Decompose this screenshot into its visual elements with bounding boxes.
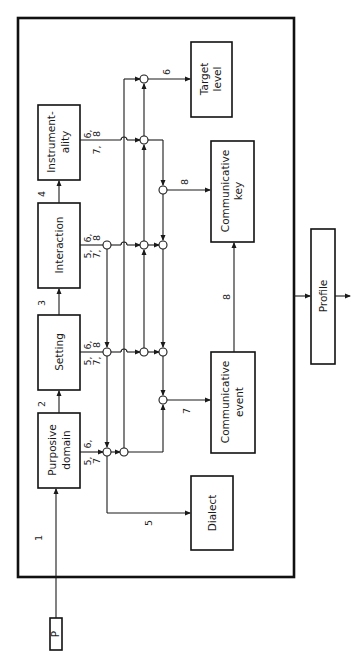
edge-label-7: 7 <box>181 408 192 414</box>
junction-node <box>103 348 111 356</box>
instrumentality-label-1: Instrument- <box>45 111 57 173</box>
communicative-event-label-1: Communicative <box>219 361 231 443</box>
junction-node <box>103 241 111 249</box>
edge-label-5: 5 <box>143 520 154 526</box>
junction-node <box>140 75 148 83</box>
setting-out-label-b: 8 <box>91 342 102 348</box>
junction-node <box>159 396 167 404</box>
junction-network <box>80 75 210 513</box>
profile-node: Profile <box>311 229 335 364</box>
purposive-domain-node: Purposive domain <box>38 413 80 488</box>
junction-node <box>159 186 167 194</box>
edge-label-1: 1 <box>33 535 44 541</box>
target-level-label-2: level <box>211 67 223 92</box>
junction-node <box>140 241 148 249</box>
purposive-domain-label-2: domain <box>60 430 72 469</box>
purposive-out-label-c: 7 <box>91 458 102 464</box>
setting-label: Setting <box>53 333 65 371</box>
target-level-node: Target level <box>191 42 232 117</box>
setting-node: Setting <box>38 315 80 390</box>
communicative-event-node: Communicative event <box>211 352 255 453</box>
communicative-key-label-1: Communicative <box>219 150 231 232</box>
communicative-event-label-2: event <box>233 387 245 417</box>
junction-node <box>120 448 128 456</box>
junction-node <box>140 136 148 144</box>
dialect-node: Dialect <box>191 476 233 550</box>
purposive-out-label-a: 6, <box>82 439 93 448</box>
interaction-node: Interaction <box>38 203 80 288</box>
setting-out-label-d: 7, <box>91 356 102 365</box>
instrumentality-out-label-b: 8 <box>91 131 102 137</box>
dialect-label: Dialect <box>206 495 218 532</box>
edge-label-8-key: 8 <box>179 179 190 185</box>
interaction-label: Interaction <box>53 217 65 274</box>
junction-node <box>103 448 111 456</box>
edge-label-3: 3 <box>36 300 47 306</box>
edge-label-6: 6 <box>161 69 172 75</box>
p-label: P <box>49 631 61 637</box>
communicative-key-node: Communicative key <box>211 141 254 242</box>
instrumentality-out-label-c: 7, <box>91 145 102 154</box>
communicative-key-label-2: key <box>232 182 244 200</box>
junction-node <box>159 241 167 249</box>
edge-label-8-event: 8 <box>221 294 232 300</box>
edge-label-2: 2 <box>36 401 47 407</box>
junction-node <box>159 348 167 356</box>
profile-label: Profile <box>317 280 329 313</box>
instrumentality-node: Instrument- ality <box>38 105 80 180</box>
interaction-out-label-b: 8 <box>91 235 102 241</box>
edge-label-4: 4 <box>36 191 47 197</box>
purposive-domain-label-1: Purposive <box>46 424 58 475</box>
junction-node <box>140 348 148 356</box>
instrumentality-label-2: ality <box>59 131 71 154</box>
speech-profile-flow-diagram: Instrument- ality Interaction Setting Pu… <box>0 0 356 666</box>
interaction-out-label-d: 7, <box>91 249 102 258</box>
p-node: P <box>49 618 62 650</box>
target-level-label-1: Target <box>198 63 210 96</box>
